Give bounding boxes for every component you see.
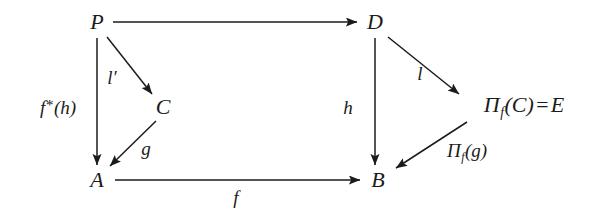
node-b: B [371,169,384,191]
edge-label-pi-f-g: Πf(g) [447,141,487,164]
edge-label-f: f [233,188,238,207]
edge-label-l-prime: l′ [107,68,116,87]
f-star-h-argument: (h) [54,97,76,118]
node-d: D [367,11,383,33]
pi-argument-c: (C) [505,92,534,117]
prime-mark: ′ [113,67,117,88]
pi-symbol-g: Π [447,140,461,161]
arrow-d-to-e [388,37,459,94]
node-c: C [156,96,171,118]
commutative-diagram: P D C A B Πf(C)=E l′ f*(h) g f h l Πf(g) [0,0,602,213]
pi-symbol: Π [484,92,500,117]
edge-label-l: l [417,64,422,83]
node-pi-f-c-equals-e: Πf(C)=E [484,94,564,119]
star-mark: * [45,96,54,113]
edge-label-h: h [343,98,353,117]
pi-g-argument: (g) [465,140,487,161]
node-p: P [90,11,103,33]
equals-sign: = [534,92,551,117]
node-e-label: E [551,92,564,117]
node-a: A [90,169,103,191]
edge-label-g: g [141,139,151,158]
edge-label-f-star-h: f*(h) [40,97,76,117]
